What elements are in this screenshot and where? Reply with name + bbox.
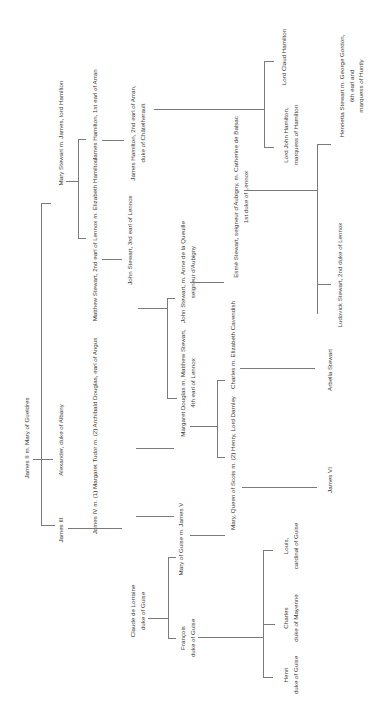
node-matthew-stewart-2: Matthew Stewart, 2nd earl of Lennox m. E… <box>90 159 100 322</box>
connector <box>263 677 273 678</box>
connector <box>190 426 217 427</box>
connector <box>263 624 275 625</box>
connector <box>136 516 174 517</box>
connector <box>138 308 168 309</box>
node-text: James Hamilton, 2nd earl of Arran, <box>128 85 138 180</box>
node-mary-stewart: Mary Stewart m. James, lord Hamilton <box>56 81 66 186</box>
node-text: marquess of Huntly <box>356 35 366 138</box>
connector <box>317 144 318 314</box>
node-text: duke of Mayenne <box>290 594 300 641</box>
node-text: 1st duke of Lennox <box>240 116 250 278</box>
node-text: Lord John Hamilton, <box>281 105 291 165</box>
node-john-stewart-3: John Stewart, 3rd earl of Lennox <box>125 195 135 284</box>
connector <box>33 459 53 460</box>
node-claude-de-lorraine: Claude de Lorraine duke of Guise <box>128 585 147 638</box>
connector <box>244 190 317 191</box>
connector <box>78 139 86 140</box>
connector <box>167 298 168 398</box>
node-john-stewart-aubigny: John Stewart, m. Anne de la Queuille sei… <box>178 221 197 323</box>
node-text: Matthew Stewart, 2nd earl of Lennox m. E… <box>90 159 100 322</box>
connector <box>148 618 168 619</box>
connector <box>136 448 174 449</box>
node-text: Henri <box>281 656 291 694</box>
node-text: Esmé Stewart, seigneur d'Aubigny, m. Cat… <box>231 116 241 278</box>
node-francois: François duke of Guise <box>178 619 197 657</box>
node-text: duke of Châtelherault <box>137 85 147 180</box>
connector <box>41 203 51 204</box>
connector <box>242 487 317 488</box>
node-text: François <box>178 619 188 657</box>
connector <box>66 181 78 182</box>
node-text: duke of Guise <box>137 585 147 638</box>
node-text: Alexander, duke of Albany <box>56 404 66 476</box>
node-text: James III <box>56 517 66 542</box>
node-text: Lord Claud Hamilton <box>279 29 289 85</box>
connector <box>167 398 177 399</box>
connector <box>263 550 273 551</box>
node-james-hamilton-1: James Hamilton, 1st earl of Arran <box>90 69 100 160</box>
family-tree-diagram: James II m. Mary of Gueldres Mary Stewar… <box>0 0 373 728</box>
node-text: James II m. Mary of Gueldres <box>22 397 32 478</box>
node-ludovick: Ludovick Stewart, 2nd duke of Lennox <box>335 223 345 328</box>
node-text: Margaret Douglas m. Matthew Stewart, <box>178 329 188 436</box>
node-james-hamilton-2: James Hamilton, 2nd earl of Arran, duke … <box>128 85 147 180</box>
node-text: Mary of Guise m. James V <box>176 503 186 576</box>
node-text: duke of Guise <box>187 619 197 657</box>
node-mary-of-guise: Mary of Guise m. James V <box>176 503 186 576</box>
node-louis: Louis, cardinal of Guise <box>281 523 300 569</box>
connector <box>154 109 264 110</box>
connector <box>217 380 218 457</box>
node-text: James IV m. (1) Margaret Tudor m. (2) Ar… <box>90 338 100 535</box>
node-james-vi: James VI <box>325 467 335 493</box>
node-arbella: Arbella Stewart <box>325 349 335 391</box>
connector <box>217 457 225 458</box>
connector <box>240 368 315 369</box>
node-mary-queen-of-scots: Mary, Queen of Scots m. (2) Henry, Lord … <box>228 396 238 530</box>
node-text: John Stewart, 3rd earl of Lennox <box>125 195 135 284</box>
node-text: marquess of Hamilton <box>290 105 300 165</box>
connector <box>167 298 175 299</box>
node-lord-claud-hamilton: Lord Claud Hamilton <box>279 29 289 85</box>
node-text: Arbella Stewart <box>325 349 335 391</box>
node-text: Henrietta Stewart m. George Gordon, <box>337 35 347 138</box>
node-margaret-douglas: Margaret Douglas m. Matthew Stewart, 4th… <box>178 329 197 436</box>
node-charles-cavendish: Charles m. Elizabeth Cavendish <box>228 301 238 389</box>
node-james-ii: James II m. Mary of Gueldres <box>22 397 32 478</box>
connector <box>264 61 274 62</box>
connector <box>168 557 176 558</box>
node-text: Mary, Queen of Scots m. (2) Henry, Lord … <box>228 396 238 530</box>
connector <box>41 525 55 526</box>
connector <box>317 144 331 145</box>
node-text: James Hamilton, 1st earl of Arran <box>90 69 100 160</box>
node-lord-john-hamilton: Lord John Hamilton, marquess of Hamilton <box>281 105 300 165</box>
node-text: Charles <box>281 594 291 641</box>
node-text: duke of Guise <box>290 656 300 694</box>
node-text: seigneur d'Aubigny <box>187 221 197 323</box>
connector <box>264 61 265 147</box>
node-text: John Stewart, m. Anne de la Queuille <box>178 221 188 323</box>
node-text: Charles m. Elizabeth Cavendish <box>228 301 238 389</box>
node-henrietta: Henrietta Stewart m. George Gordon, 6th … <box>337 35 366 138</box>
connector <box>317 284 331 285</box>
connector <box>190 282 224 283</box>
connector <box>102 140 124 141</box>
node-alexander: Alexander, duke of Albany <box>56 404 66 476</box>
connector <box>168 638 176 639</box>
connector <box>102 259 122 260</box>
node-text: James VI <box>325 467 335 493</box>
connector <box>78 238 86 239</box>
connector <box>263 550 264 677</box>
node-henri: Henri duke of Guise <box>281 656 300 694</box>
node-text: Ludovick Stewart, 2nd duke of Lennox <box>335 223 345 328</box>
connector <box>217 380 225 381</box>
node-text: cardinal of Guise <box>290 523 300 569</box>
node-charles-mayenne: Charles duke of Mayenne <box>281 594 300 641</box>
connector <box>41 203 42 525</box>
connector <box>168 557 169 638</box>
node-james-iv: James IV m. (1) Margaret Tudor m. (2) Ar… <box>90 338 100 535</box>
connector <box>264 147 274 148</box>
node-esme-stewart: Esmé Stewart, seigneur d'Aubigny, m. Cat… <box>231 116 250 278</box>
connector <box>198 637 264 638</box>
connector <box>190 535 225 536</box>
connector <box>78 139 79 238</box>
